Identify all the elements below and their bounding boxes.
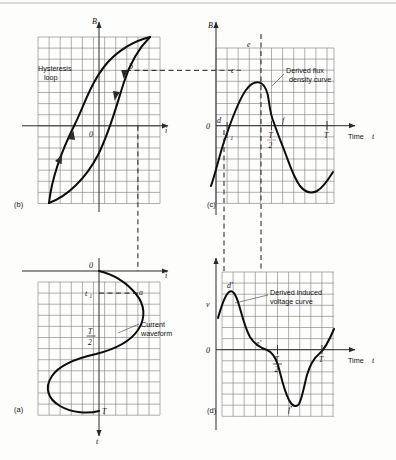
voltage-annotation-line1: Derived induced bbox=[270, 288, 322, 297]
panel-b-origin-label: 0 bbox=[89, 130, 93, 139]
induced-voltage-curve bbox=[218, 291, 334, 406]
panel-c-tag: (c) bbox=[207, 200, 216, 209]
hysteresis-direction-arrows bbox=[55, 70, 128, 164]
panel-d-x-axis-label: Time bbox=[348, 356, 364, 365]
panel-a-t1-subscript: 1 bbox=[90, 293, 93, 299]
panel-d-half-period-denominator: 2 bbox=[275, 365, 279, 374]
panel-d-period-label: T bbox=[319, 355, 324, 364]
panel-b-tag: (b) bbox=[14, 200, 24, 209]
panel-d: v 0 d' e' f' Derived induced voltage cur… bbox=[206, 258, 375, 430]
panel-d-half-period-numerator: T bbox=[275, 355, 280, 364]
panel-c-point-c-label: c bbox=[231, 66, 235, 75]
figure-canvas: Hysteresis loop 0 i B b (b) bbox=[0, 0, 396, 460]
panel-b: Hysteresis loop 0 i B b (b) bbox=[14, 17, 241, 271]
panel-a-half-period-numerator: T bbox=[88, 327, 93, 336]
panel-c-t1-subscript: 1 bbox=[231, 135, 234, 141]
panel-d-point-f-label: f' bbox=[288, 405, 292, 414]
panel-d-y-axis-label: v bbox=[206, 300, 210, 309]
panel-c-y-axis-label: B bbox=[208, 21, 213, 30]
flux-annotation-leader bbox=[272, 74, 284, 86]
hysteresis-label-line1: Hysteresis bbox=[38, 64, 72, 73]
panel-c: B 0 Derived flux density curve e c d f t… bbox=[206, 21, 375, 272]
panel-a-point-a-label: a bbox=[139, 288, 143, 297]
panel-c-origin-label: 0 bbox=[206, 122, 210, 131]
panel-b-y-axis-label: B bbox=[92, 17, 97, 26]
panel-c-period-label: T bbox=[324, 131, 329, 140]
panel-a-period-label: T bbox=[102, 407, 107, 416]
panel-a-i-axis-label: i bbox=[165, 271, 167, 280]
panel-c-point-e-label: e bbox=[247, 40, 251, 49]
panel-c-half-period-numerator: T bbox=[269, 131, 274, 140]
current-annotation-line1: Current bbox=[141, 320, 165, 329]
panel-b-x-axis-label: i bbox=[165, 126, 167, 135]
panel-a-origin-label: 0 bbox=[89, 261, 93, 270]
current-waveform-curve bbox=[48, 271, 144, 413]
panel-a: 0 i t t 1 a T 2 T Current waveform (a) bbox=[14, 258, 172, 446]
panel-c-half-period-denominator: 2 bbox=[269, 141, 273, 150]
panel-d-x-axis-label-var: t bbox=[372, 356, 375, 365]
panel-d-point-d-label: d' bbox=[227, 281, 233, 290]
panel-d-origin-label: 0 bbox=[206, 346, 210, 355]
panel-c-x-axis-label: Time bbox=[348, 132, 364, 141]
panel-a-t1-label: t bbox=[85, 289, 88, 298]
panel-c-x-axis-label-var: t bbox=[372, 132, 375, 141]
panel-c-point-d-label: d bbox=[217, 116, 222, 125]
current-annotation-line2: waveform bbox=[140, 329, 172, 338]
panel-a-half-period-denominator: 2 bbox=[88, 338, 92, 347]
figure-root: Hysteresis loop 0 i B b (b) bbox=[0, 0, 396, 460]
flux-annotation-line1: Derived flux bbox=[286, 66, 324, 75]
hysteresis-label-line2: loop bbox=[44, 73, 58, 82]
panel-c-point-f-label: f bbox=[282, 116, 286, 125]
flux-annotation-line2: density curve bbox=[289, 75, 331, 84]
panel-c-t1-label: t bbox=[226, 131, 229, 140]
panel-a-t-axis-label: t bbox=[96, 437, 99, 446]
panel-d-tag: (d) bbox=[207, 406, 217, 415]
panel-d-point-e-label: e' bbox=[256, 339, 262, 348]
panel-b-point-b-label: b bbox=[129, 62, 133, 71]
voltage-annotation-line2: voltage curve bbox=[270, 297, 313, 306]
panel-a-tag: (a) bbox=[14, 405, 24, 414]
voltage-annotation-leader bbox=[235, 295, 268, 303]
